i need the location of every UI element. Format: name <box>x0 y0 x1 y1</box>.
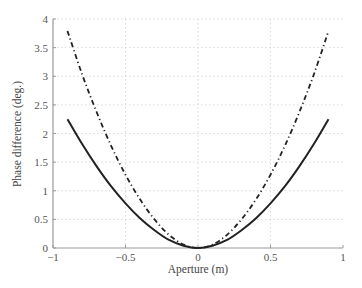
y-tick-label: 1.5 <box>34 156 48 168</box>
y-tick-label: 2 <box>43 128 49 140</box>
grid-lines <box>53 19 343 248</box>
x-tick-label: 0 <box>195 251 201 263</box>
phase-difference-chart: 00.511.522.533.54−1−0.500.51 Aperture (m… <box>0 0 362 288</box>
x-tick-label: −1 <box>47 251 59 263</box>
x-tick-label: 0.5 <box>264 251 278 263</box>
x-axis-label: Aperture (m) <box>168 263 229 276</box>
y-axis-label: Phase difference (deg.) <box>11 81 24 187</box>
x-tick-label: 1 <box>340 251 346 263</box>
y-tick-label: 3.5 <box>34 42 48 54</box>
y-tick-label: 1 <box>43 185 49 197</box>
tick-labels: 00.511.522.533.54−1−0.500.51 <box>34 13 346 263</box>
y-tick-label: 2.5 <box>34 99 48 111</box>
y-tick-label: 0.5 <box>34 213 48 225</box>
y-tick-label: 4 <box>43 13 49 25</box>
y-tick-label: 3 <box>43 70 49 82</box>
x-tick-label: −0.5 <box>116 251 136 263</box>
